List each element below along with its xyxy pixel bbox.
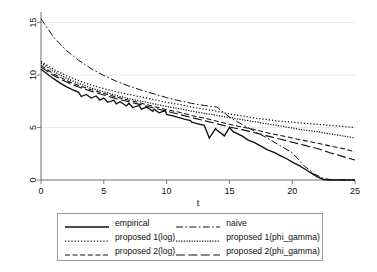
x-tick-label: 10 <box>162 186 172 196</box>
series-line-proposed-2-log <box>41 66 355 152</box>
series-line-empirical <box>41 69 355 180</box>
legend-item[interactable]: proposed 2(phi_gamma) <box>175 246 320 256</box>
series-line-proposed-1-log <box>41 61 355 127</box>
x-tick-label: 5 <box>101 186 106 196</box>
legend-label: empirical <box>115 218 149 228</box>
legend-label: naive <box>226 218 247 228</box>
legend-swatch-dotted-dense <box>175 232 221 242</box>
legend-label: proposed 1(phi_gamma) <box>226 232 320 242</box>
series-line-proposed-2-phi-gamma <box>41 67 355 160</box>
x-axis-label: t <box>197 198 200 208</box>
legend-item[interactable]: proposed 1(log) <box>64 232 175 242</box>
y-tick-label: 5 <box>28 125 38 130</box>
legend-swatch-solid <box>64 218 110 228</box>
y-tick-label: 10 <box>28 70 38 80</box>
legend-label: proposed 2(phi_gamma) <box>226 246 320 256</box>
legend-swatch-dashed <box>64 246 110 256</box>
series-line-naive <box>41 19 355 180</box>
legend-item[interactable]: empirical <box>64 218 175 228</box>
legend-swatch-long-dash <box>175 246 221 256</box>
x-tick-label: 0 <box>38 186 43 196</box>
y-tick-label: 0 <box>28 177 38 182</box>
y-tick-label: 15 <box>28 17 38 27</box>
legend-grid: empiricalnaiveproposed 1(log)proposed 1(… <box>58 214 322 260</box>
legend-item[interactable]: naive <box>175 218 320 228</box>
legend-label: proposed 2(log) <box>115 246 175 256</box>
x-tick-label: 20 <box>287 186 297 196</box>
legend-label: proposed 1(log) <box>115 232 175 242</box>
series-line-proposed-1-phi-gamma <box>41 63 355 138</box>
chart-legend: empiricalnaiveproposed 1(log)proposed 1(… <box>57 213 323 261</box>
legend-item[interactable]: proposed 1(phi_gamma) <box>175 232 320 242</box>
chart-figure: 0510150510152025t empiricalnaiveproposed… <box>0 0 377 272</box>
x-tick-label: 25 <box>350 186 360 196</box>
legend-swatch-dotted-fine <box>64 232 110 242</box>
legend-swatch-dash-dot <box>175 218 221 228</box>
x-tick-label: 15 <box>224 186 234 196</box>
legend-item[interactable]: proposed 2(log) <box>64 246 175 256</box>
